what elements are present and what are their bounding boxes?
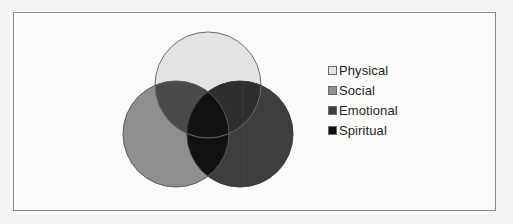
legend-item-spiritual: Spiritual [328,120,398,140]
social-swatch-icon [328,86,337,95]
legend-item-social: Social [328,80,398,100]
legend: Physical Social Emotional Spiritual [328,60,398,140]
legend-label: Social [339,83,375,98]
venn-diagram [0,0,513,224]
legend-item-physical: Physical [328,60,398,80]
emotional-swatch-icon [328,106,337,115]
legend-label: Physical [339,63,388,78]
legend-item-emotional: Emotional [328,100,398,120]
spiritual-swatch-icon [328,126,337,135]
legend-label: Spiritual [339,123,387,138]
legend-label: Emotional [339,103,398,118]
physical-swatch-icon [328,66,337,75]
